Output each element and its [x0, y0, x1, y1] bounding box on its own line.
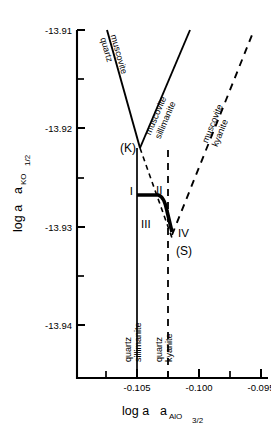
x-axis-title-species: AlO	[169, 412, 182, 421]
chart-background	[0, 0, 271, 430]
x-axis-title-a: a	[160, 404, 167, 418]
y-tick-label-2: -13.93	[45, 222, 72, 233]
annotation-region-i: I	[130, 185, 133, 197]
y-axis-title-frac: 1/2	[23, 154, 32, 166]
phase-diagram-figure: -13.91 -13.92 -13.93 -13.94 -0.105 -0.10…	[0, 0, 271, 430]
chart-svg: -13.91 -13.92 -13.93 -13.94 -0.105 -0.10…	[0, 0, 271, 430]
annotation-region-ii: II	[156, 184, 162, 196]
annotation-region-iii: III	[141, 218, 151, 230]
y-tick-label-3: -13.94	[45, 320, 72, 331]
quartz-sillimanite-line2: sillimanite	[133, 322, 143, 362]
x-tick-label-0: -0.105	[124, 382, 151, 393]
quartz-sillimanite-line1: quartz	[123, 336, 133, 362]
quartz-kyanite-line1: quartz	[154, 336, 164, 362]
y-axis-title-species: KO	[19, 173, 28, 185]
y-tick-label-0: -13.91	[45, 25, 72, 36]
annotation-invariant-point-s: (S)	[176, 244, 192, 258]
y-axis-title-a: a	[11, 187, 25, 194]
x-axis-title-frac: 3/2	[192, 416, 204, 425]
x-tick-label-2: -0.095	[248, 382, 271, 393]
x-axis-title-main: log a	[122, 404, 149, 418]
y-tick-label-1: -13.92	[45, 123, 72, 134]
x-tick-label-1: -0.100	[186, 382, 213, 393]
annotation-invariant-point-k: (K)	[120, 141, 136, 155]
label-quartz-kyanite: quartz kyanite	[154, 333, 175, 362]
annotation-region-iv: IV	[178, 227, 189, 239]
quartz-kyanite-line2: kyanite	[164, 333, 174, 362]
y-axis-title-main: log a	[11, 205, 25, 232]
x-axis-tick-labels: -0.105 -0.100 -0.095	[124, 382, 271, 393]
